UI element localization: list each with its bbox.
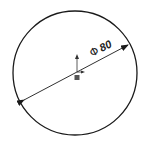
sketch-canvas: Φ 80 <box>0 0 150 151</box>
dimension-label[interactable]: Φ 80 <box>87 37 114 60</box>
dimension-value: 80 <box>97 37 114 54</box>
origin-axes-icon <box>75 54 86 80</box>
diameter-dimension[interactable]: Φ 80 <box>24 37 128 100</box>
dimension-line <box>24 45 128 100</box>
